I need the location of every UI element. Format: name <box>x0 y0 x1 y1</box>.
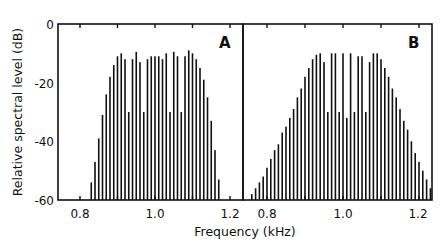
spectral-bar <box>342 53 344 200</box>
spectral-bar <box>270 159 272 200</box>
spectral-bar <box>422 171 424 200</box>
spectral-bar <box>376 53 378 200</box>
spectral-bar <box>278 144 280 200</box>
spectral-bar <box>373 53 375 200</box>
y-tick-label: -40 <box>34 135 54 149</box>
spectral-bar <box>335 53 337 200</box>
spectral-bar <box>403 121 405 200</box>
x-tick-label: 0.8 <box>70 207 89 221</box>
spectral-bar <box>98 138 100 200</box>
spectral-bar <box>135 52 137 200</box>
spectral-bar <box>323 62 325 200</box>
spectral-bar <box>177 56 179 200</box>
spectral-bar <box>399 109 401 200</box>
panel-b: B 0.8 1.0 1.2 <box>243 24 432 221</box>
x-tick-label: 1.2 <box>408 207 427 221</box>
panel-a-label: A <box>219 34 231 52</box>
spectral-bar <box>173 52 175 200</box>
spectral-bar <box>426 179 428 200</box>
spectral-bar <box>259 182 261 200</box>
x-tick-label: 1.0 <box>333 207 352 221</box>
spectral-bar <box>102 115 104 200</box>
spectral-bar <box>369 62 371 200</box>
spectral-bar <box>124 59 126 200</box>
spectral-bar <box>346 118 348 200</box>
spectral-bar <box>407 130 409 200</box>
spectral-bar <box>308 68 310 200</box>
spectral-bar <box>414 153 416 200</box>
spectral-bar <box>94 162 96 200</box>
spectral-bar <box>388 77 390 200</box>
spectral-bar <box>338 112 340 200</box>
panel-a: A 0.8 1.0 1.2 <box>58 24 243 221</box>
spectral-bar <box>192 53 194 200</box>
spectral-bar <box>165 53 167 200</box>
spectral-bar <box>297 97 299 200</box>
spectral-bar <box>162 59 164 200</box>
spectral-bar <box>293 109 295 200</box>
spectral-bar <box>251 194 253 200</box>
x-tick-label: 0.8 <box>257 207 276 221</box>
spectral-bar <box>128 112 130 200</box>
spectral-bar <box>274 150 276 200</box>
spectral-bar <box>350 53 352 200</box>
spectral-bar <box>150 56 152 200</box>
spectral-bar <box>361 56 363 200</box>
spectral-bar <box>147 59 149 200</box>
spectral-bar <box>319 53 321 200</box>
spectral-bar <box>207 97 209 200</box>
spectral-bar <box>266 168 268 200</box>
spectral-bar <box>169 112 171 200</box>
spectral-bar <box>109 77 111 200</box>
spectral-bar <box>316 55 318 200</box>
spectral-bar <box>289 118 291 200</box>
spectral-bar <box>132 59 134 200</box>
spectral-bar <box>255 188 257 200</box>
spectral-bar <box>203 80 205 200</box>
spectral-bar <box>139 62 141 200</box>
spectral-bar <box>143 112 145 200</box>
spectral-bar <box>331 53 333 200</box>
spectral-bar <box>113 65 115 200</box>
x-axis-title: Frequency (kHz) <box>194 224 296 239</box>
spectral-bar <box>365 112 367 200</box>
spectral-bar <box>154 56 156 200</box>
spectral-bar <box>380 59 382 200</box>
spectral-bar <box>430 188 432 200</box>
y-tick-label: -60 <box>34 194 54 208</box>
panel-a-bars <box>80 24 230 200</box>
spectral-bar <box>312 59 314 200</box>
y-tick-label: -20 <box>34 77 54 91</box>
spectral-bar <box>210 121 212 200</box>
panel-b-label: B <box>408 34 419 52</box>
spectral-bar <box>357 56 359 200</box>
spectral-bar <box>392 89 394 200</box>
spectral-bar <box>384 68 386 200</box>
spectral-bar <box>188 50 190 200</box>
spectral-bar <box>218 179 220 200</box>
spectrum-figure: Relative spectral level (dB) Frequency (… <box>0 0 448 250</box>
spectral-bar <box>214 150 216 200</box>
x-tick-label: 1.0 <box>145 207 164 221</box>
spectral-bar <box>262 177 264 200</box>
spectral-bar <box>105 94 107 200</box>
spectral-bar <box>158 56 160 200</box>
spectral-bar <box>327 112 329 200</box>
spectral-bar <box>304 77 306 200</box>
y-axis-title: Relative spectral level (dB) <box>10 28 25 197</box>
spectral-bar <box>184 56 186 200</box>
spectral-bar <box>90 182 92 200</box>
spectral-bar <box>195 59 197 200</box>
spectral-bar <box>300 89 302 200</box>
spectral-bar <box>418 162 420 200</box>
panel-b-bars <box>251 24 431 200</box>
y-tick-label: 0 <box>46 18 54 32</box>
spectral-bar <box>120 53 122 200</box>
spectral-bar <box>285 127 287 200</box>
spectral-bar <box>281 133 283 200</box>
spectral-bar <box>354 112 356 200</box>
spectral-bar <box>117 56 119 200</box>
spectral-bar <box>199 68 201 200</box>
spectral-bar <box>395 97 397 200</box>
spectral-bar <box>411 141 413 200</box>
